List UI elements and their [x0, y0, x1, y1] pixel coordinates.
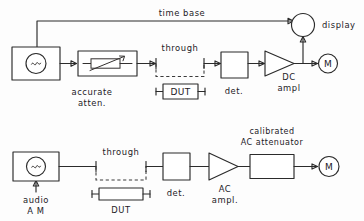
top-through-path [156, 64, 204, 77]
bottom-audio-am-input [33, 181, 38, 193]
bottom-through-label: through [103, 147, 140, 157]
dc-ampl-label-line2: ampl [277, 83, 300, 93]
accurate-atten-label-line2: atten. [78, 98, 106, 108]
top-link-source-atten [60, 61, 77, 67]
accurate-atten-label-line1: accurate [71, 87, 112, 97]
top-signal-source [12, 47, 60, 80]
top-meter-label: M [324, 59, 332, 69]
bottom-ac-amplifier [209, 153, 238, 180]
dc-ampl-label-line1: DC [282, 72, 295, 82]
bottom-detector-label: det. [167, 188, 186, 198]
top-through-label: through [162, 43, 199, 53]
display-crt [292, 14, 315, 37]
ac-ampl-label-line1: AC [219, 184, 232, 194]
top-detector [221, 52, 248, 78]
diagram-canvas: accurate atten. through DUT [0, 0, 364, 221]
time-base-label: time base [159, 8, 206, 18]
ac-ampl-label-line2: ampl. [212, 195, 238, 205]
bottom-link-atten-meter [294, 164, 318, 169]
bottom-through-path [96, 167, 146, 181]
top-link-det-amp [248, 61, 265, 66]
bottom-dut-block [92, 188, 150, 200]
top-dut-label: DUT [170, 87, 190, 97]
audio-am-label-line1: audio [23, 195, 49, 205]
bottom-dut-label: DUT [111, 205, 131, 215]
top-link-atten-connector [137, 59, 156, 69]
calibrated-atten-label-line2: AC attenuator [241, 138, 304, 147]
top-meter: M [319, 54, 338, 73]
top-detector-label: det. [225, 86, 244, 96]
calibrated-atten-label-line1: calibrated [249, 127, 294, 136]
top-amp-output-node [294, 37, 318, 67]
bottom-meter: M [319, 157, 339, 177]
block-diagram-svg: accurate atten. through DUT [0, 0, 364, 221]
bottom-signal-source [13, 152, 59, 181]
bottom-detector [163, 153, 190, 180]
calibrated-ac-attenuator [250, 155, 294, 179]
top-accurate-attenuator [78, 51, 137, 76]
bottom-link-source-connector [59, 162, 96, 172]
bottom-right-connector [146, 162, 163, 172]
bottom-meter-label: M [325, 162, 333, 172]
display-label: display [322, 20, 356, 30]
audio-am-label-line2: A M [27, 206, 44, 216]
top-right-connector [204, 59, 221, 69]
